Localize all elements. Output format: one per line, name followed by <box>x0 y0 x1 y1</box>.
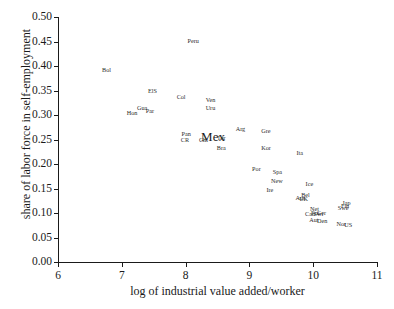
x-tick-label: 6 <box>55 270 61 282</box>
data-point-label: Col <box>177 94 186 100</box>
x-tick-label: 8 <box>183 270 189 282</box>
x-tick-mark <box>249 262 250 267</box>
y-tick-label: 0.10 <box>32 207 52 219</box>
data-point-label: US <box>344 222 352 228</box>
y-tick-label: 0.35 <box>32 85 52 97</box>
y-tick-label: 0.05 <box>32 232 52 244</box>
data-point-label: Bra <box>217 145 226 151</box>
x-tick-label: 9 <box>247 270 253 282</box>
data-point-label: UK <box>299 196 308 202</box>
data-point-label: Ice <box>306 180 314 186</box>
y-tick-label: 0.15 <box>32 183 52 195</box>
y-tick-label: 0.50 <box>32 11 52 23</box>
x-tick-mark <box>122 262 123 267</box>
y-tick-label: 0.45 <box>32 36 52 48</box>
y-tick-mark <box>54 66 58 67</box>
y-tick-label: 0.40 <box>32 60 52 72</box>
data-point-label: Hon <box>127 109 138 115</box>
data-point-label: Swe <box>338 205 349 211</box>
y-tick-mark <box>54 42 58 43</box>
y-axis-title: share of labor force in self-employment <box>20 0 32 254</box>
y-tick-mark <box>54 17 58 18</box>
data-point-label: Kor <box>261 145 271 151</box>
x-axis-line <box>58 262 377 263</box>
data-point-label: Den <box>317 218 327 224</box>
data-point-label: Ven <box>206 97 216 103</box>
x-tick-mark <box>313 262 314 267</box>
x-tick-label: 11 <box>371 270 382 282</box>
data-point-label: Arg <box>236 126 246 132</box>
y-tick-mark <box>54 189 58 190</box>
x-tick-mark <box>377 262 378 267</box>
x-tick-mark <box>58 262 59 267</box>
data-point-label: Spa <box>273 169 282 175</box>
data-point-label: New <box>271 178 283 184</box>
data-point-label: Peru <box>188 37 199 43</box>
plot-area: 0.000.050.100.150.200.250.300.350.400.45… <box>58 17 377 262</box>
x-axis-title: log of industrial value added/worker <box>58 285 377 297</box>
data-point-label: Ire <box>266 187 273 193</box>
data-point-label: Bol <box>102 67 111 73</box>
data-point-label: ElS <box>148 88 157 94</box>
x-tick-label: 7 <box>119 270 125 282</box>
y-tick-mark <box>54 91 58 92</box>
data-point-label: Par <box>146 108 154 114</box>
y-tick-mark <box>54 140 58 141</box>
y-tick-label: 0.25 <box>32 134 52 146</box>
data-point-label: Gre <box>261 128 270 134</box>
y-tick-mark <box>54 238 58 239</box>
data-point-label: Ita <box>297 150 304 156</box>
data-point-label: Uru <box>206 105 216 111</box>
y-tick-mark <box>54 213 58 214</box>
y-tick-label: 0.00 <box>32 256 52 268</box>
y-tick-mark <box>54 115 58 116</box>
y-tick-label: 0.30 <box>32 109 52 121</box>
data-point-label: Tur <box>217 135 226 141</box>
scatter-plot-figure: 0.000.050.100.150.200.250.300.350.400.45… <box>0 0 394 309</box>
x-tick-mark <box>186 262 187 267</box>
data-point-label: Chi <box>199 137 208 143</box>
data-point-label: Por <box>252 166 261 172</box>
y-tick-label: 0.20 <box>32 158 52 170</box>
y-tick-mark <box>54 164 58 165</box>
x-tick-label: 10 <box>307 270 319 282</box>
data-point-label: CR <box>181 137 189 143</box>
